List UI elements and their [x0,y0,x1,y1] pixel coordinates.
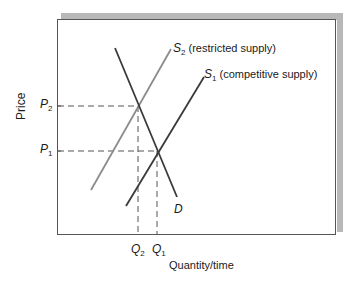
p2-symbol: P [40,97,48,111]
p2-label: P2 [40,98,52,110]
s2-label: S2 (restricted supply) [173,42,276,54]
demand-label: D [174,203,183,215]
s2-sub: 2 [181,48,185,57]
p1-label: P1 [40,143,52,155]
p1-symbol: P [40,142,48,156]
s1-symbol: S [204,67,212,81]
s1-sub: 1 [212,74,216,83]
q2-label: Q2 [131,243,145,255]
q2-sub: 2 [140,249,144,258]
q1-label: Q1 [152,243,166,255]
s2-desc: (restricted supply) [189,42,276,54]
s2-symbol: S [173,41,181,55]
y-axis-label: Price [14,93,28,120]
p1-sub: 1 [48,149,52,158]
p2-sub: 2 [48,104,52,113]
s2-curve [91,49,171,190]
s1-label: S1 (competitive supply) [204,68,317,80]
x-axis-label: Quantity/time [169,259,234,271]
s1-desc: (competitive supply) [220,68,318,80]
q2-symbol: Q [131,242,140,256]
q1-sub: 1 [161,249,165,258]
q1-symbol: Q [152,242,161,256]
